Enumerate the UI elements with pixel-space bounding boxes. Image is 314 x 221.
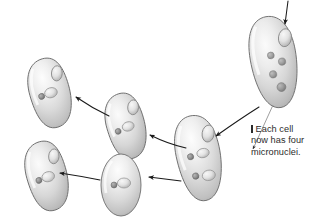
arrow-midright-to-bottomcenter xyxy=(149,177,181,181)
figure-canvas: Each cell now has four micronuclei. xyxy=(0,0,314,221)
annotation-line-2: now has four xyxy=(251,135,304,146)
cell-single-pair-lower-left xyxy=(18,137,76,215)
vertical-bar-icon xyxy=(251,125,253,133)
cell-with-four-micronuclei xyxy=(243,13,305,112)
cell-single-pair-upper-left xyxy=(21,54,79,132)
annotation-line-1-text: Each cell xyxy=(256,124,294,134)
cell-single-pair-bottom xyxy=(101,154,141,216)
annotation-line-3: micronuclei. xyxy=(251,147,304,158)
arrow-incoming-top xyxy=(285,1,288,24)
annotation-caption: Each cell now has four micronuclei. xyxy=(251,124,304,158)
cell-diagram-svg xyxy=(0,0,314,221)
arrow-midcenter-to-upperleft xyxy=(76,97,109,116)
cell-single-pair-upper xyxy=(99,89,154,163)
macronucleus xyxy=(117,178,130,188)
micronucleus xyxy=(111,182,117,188)
cell-dividing-pair xyxy=(169,111,230,204)
annotation-line-1: Each cell xyxy=(251,124,304,135)
